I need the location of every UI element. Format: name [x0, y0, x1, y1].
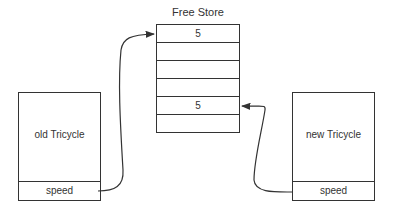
pointer-arrows — [0, 0, 399, 214]
new-pointer-arrow — [242, 106, 292, 192]
old-pointer-arrow — [98, 34, 154, 191]
